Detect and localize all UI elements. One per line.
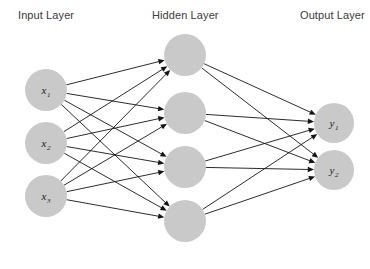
- node-x1: x1: [25, 69, 67, 111]
- layer-labels-group: Input LayerHidden LayerOutput Layer: [18, 9, 365, 21]
- node-circle: [164, 92, 206, 134]
- connection-x3-h1: [61, 70, 171, 181]
- node-subscript: 2: [47, 144, 51, 152]
- edges-group: [61, 59, 318, 219]
- arrow-head-icon: [158, 106, 165, 111]
- edge-line: [66, 61, 159, 85]
- neural-network-diagram: x1x2x3y1y2 Input LayerHidden LayerOutput…: [0, 0, 370, 269]
- node-circle: [164, 146, 206, 188]
- connection-x3-h3: [67, 170, 165, 192]
- edge-line: [206, 114, 309, 121]
- node-h1: [164, 34, 206, 76]
- connection-h1-y1: [204, 64, 316, 115]
- layer-label-input: Input Layer: [18, 9, 74, 21]
- network-canvas: x1x2x3y1y2 Input LayerHidden LayerOutput…: [0, 0, 370, 269]
- nodes-group: x1x2x3y1y2: [25, 34, 354, 242]
- connection-h1-y2: [202, 68, 319, 158]
- arrow-head-icon: [161, 66, 168, 72]
- layer-label-output: Output Layer: [300, 9, 365, 21]
- arrow-head-icon: [158, 170, 165, 175]
- edge-line: [206, 167, 309, 169]
- connection-h4-y2: [205, 176, 315, 214]
- node-subscript: 3: [46, 197, 51, 205]
- edge-line: [203, 137, 314, 210]
- edge-line: [61, 74, 167, 182]
- edge-line: [64, 126, 163, 185]
- connection-h2-y1: [206, 114, 314, 124]
- arrow-head-icon: [158, 160, 165, 165]
- connection-x1-h3: [64, 100, 166, 157]
- layer-label-hidden: Hidden Layer: [152, 9, 219, 21]
- node-y1: y1: [314, 103, 354, 143]
- node-h2: [164, 92, 206, 134]
- connection-x1-h1: [66, 59, 164, 85]
- edge-line: [202, 68, 315, 155]
- arrow-head-icon: [309, 158, 316, 163]
- connection-x3-h2: [64, 124, 167, 185]
- edge-line: [205, 130, 310, 161]
- edge-line: [67, 147, 160, 163]
- arrow-head-icon: [160, 124, 167, 129]
- arrow-head-icon: [308, 119, 314, 124]
- arrow-head-icon: [308, 128, 315, 133]
- node-subscript: 1: [47, 91, 51, 99]
- node-h3: [164, 146, 206, 188]
- arrow-head-icon: [158, 59, 165, 64]
- arrow-head-icon: [158, 116, 165, 121]
- edge-line: [205, 178, 310, 214]
- connection-x2-h1: [64, 66, 168, 132]
- edge-line: [64, 69, 163, 132]
- connection-x3-h4: [67, 200, 165, 219]
- node-subscript: 1: [335, 124, 339, 132]
- edge-line: [67, 200, 160, 217]
- edge-line: [61, 104, 166, 203]
- node-y2: y2: [314, 150, 354, 190]
- arrow-head-icon: [308, 167, 314, 172]
- edge-line: [205, 121, 311, 162]
- connection-x1-h2: [67, 93, 165, 111]
- node-circle: [164, 34, 206, 76]
- node-circle: [164, 200, 206, 242]
- arrow-head-icon: [312, 152, 319, 158]
- node-h4: [164, 200, 206, 242]
- node-x2: x2: [25, 122, 67, 164]
- node-x3: x3: [25, 175, 67, 217]
- edge-line: [204, 64, 311, 113]
- arrow-head-icon: [311, 134, 318, 140]
- connection-x2-h2: [67, 116, 165, 138]
- node-subscript: 2: [335, 171, 339, 179]
- edge-line: [64, 153, 162, 208]
- arrow-head-icon: [158, 214, 165, 219]
- arrow-head-icon: [308, 176, 315, 181]
